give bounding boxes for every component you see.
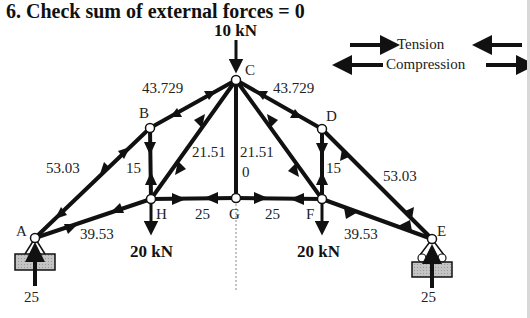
arrow-icon <box>144 142 156 155</box>
node-H <box>147 195 156 204</box>
arrow-icon <box>145 172 157 185</box>
support-E <box>412 239 452 288</box>
node-A <box>31 234 40 243</box>
member-HG <box>151 198 236 199</box>
force-label-DE: 53.03 <box>383 168 417 185</box>
node-D <box>318 125 327 134</box>
force-label-GF: 25 <box>265 206 280 223</box>
force-label-CH: 21.51 <box>192 144 226 161</box>
node-B <box>146 124 155 133</box>
node-E <box>428 235 437 244</box>
load-label-C: 10 kN <box>214 21 257 41</box>
legend-tension: Tension <box>397 36 444 53</box>
node-F <box>318 195 327 204</box>
page-title: 6. Check sum of external forces = 0 <box>6 0 305 23</box>
arrow-icon <box>254 192 268 204</box>
force-label-CF: 21.51 <box>240 144 274 161</box>
force-label-CG: 0 <box>242 164 250 181</box>
force-label-AB: 53.03 <box>46 160 80 177</box>
truss-diagram: 6. Check sum of external forces = 0 Tens… <box>0 0 530 318</box>
node-label-F: F <box>306 206 314 223</box>
member-AB <box>35 128 150 238</box>
reaction-label-E: 25 <box>421 289 436 306</box>
node-label-C: C <box>245 62 255 79</box>
arrow-icon <box>316 143 328 156</box>
node-label-B: B <box>139 105 149 122</box>
support-A <box>15 238 55 286</box>
force-label-BH: 15 <box>126 160 141 177</box>
reaction-label-A: 25 <box>24 289 39 306</box>
force-label-HG: 25 <box>195 206 210 223</box>
member-CF <box>236 80 322 199</box>
member-CH <box>151 80 236 199</box>
force-label-BC: 43.729 <box>142 80 183 97</box>
legend-compression: Compression <box>386 56 465 73</box>
arrow-icon <box>290 193 304 205</box>
arrow-icon <box>64 224 78 234</box>
force-label-FE: 39.53 <box>344 226 378 243</box>
node-C <box>232 76 241 85</box>
load-label-H: 20 kN <box>130 242 173 262</box>
node-label-H: H <box>156 206 167 223</box>
force-label-CD: 43.729 <box>273 80 314 97</box>
arrow-icon <box>110 203 124 213</box>
force-label-DF: 15 <box>326 160 341 177</box>
arrow-icon <box>172 193 186 205</box>
arrow-icon <box>204 192 218 204</box>
member-GF <box>236 198 322 199</box>
load-label-F: 20 kN <box>297 242 340 262</box>
node-G <box>232 194 241 203</box>
node-label-D: D <box>326 108 337 125</box>
force-label-AH: 39.53 <box>80 226 114 243</box>
node-label-E: E <box>437 223 446 240</box>
member-BH <box>150 128 151 199</box>
node-label-A: A <box>16 223 27 240</box>
node-label-G: G <box>229 206 240 223</box>
